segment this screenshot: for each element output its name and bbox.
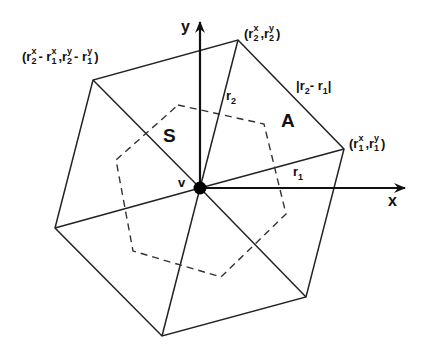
spoke-1 [200,149,344,188]
r2-vector-label: r2 [226,88,236,103]
edge-minus: - [310,78,318,93]
edge-r1-sub: 1 [323,86,328,96]
point-diff-coordinates: (rx2- rx1,ry2- ry1) [22,49,98,65]
vertex-v-label: v [178,175,185,190]
r1-vector-label: r1 [293,164,303,179]
region-s-label: S [163,125,176,147]
spoke-3 [162,188,200,336]
point-r1-coordinates: (rx1,ry1) [349,136,385,152]
edge-length-label: |r2- r1| [296,78,331,93]
edge-r2-sub: 2 [305,86,310,96]
r2-sub: 2 [231,96,236,106]
spoke-5 [93,80,200,188]
region-a-label: A [281,110,295,132]
spoke-2 [200,188,306,297]
vertex-v-dot [194,182,207,195]
spoke-4 [55,188,200,228]
x-axis-label: x [388,192,397,210]
r1-sub: 1 [298,172,303,182]
edge-r1-base: r [318,78,323,93]
point-r2-coordinates: (rx2,ry2) [244,26,280,42]
y-axis-label: y [181,18,190,36]
edge-r2-base: r [300,78,305,93]
hexagon-diagram: y x v S A r2 r1 |r2- r1| (rx2,ry2) (rx1,… [0,0,430,353]
